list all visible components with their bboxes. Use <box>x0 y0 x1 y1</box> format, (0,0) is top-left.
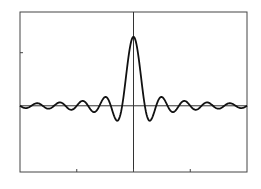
sinc-chart <box>0 0 261 189</box>
